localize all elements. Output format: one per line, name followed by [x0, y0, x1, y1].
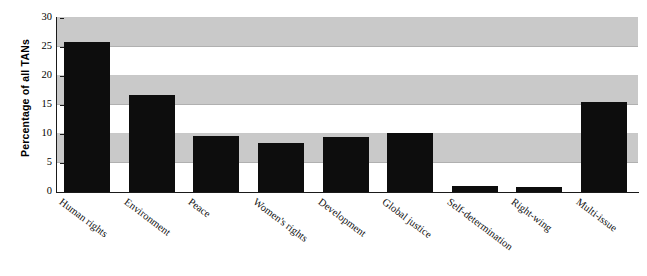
- y-tick-label: 15: [12, 98, 52, 109]
- y-tick-mark: [60, 105, 64, 106]
- bar: [129, 95, 175, 192]
- y-tick-mark: [60, 134, 64, 135]
- bar: [323, 137, 369, 192]
- x-tick-label: Global justice: [380, 196, 433, 240]
- x-axis-category-labels: Human rightsEnvironmentPeaceWomen's righ…: [0, 192, 647, 276]
- x-tick-label: Self-determination: [445, 196, 515, 252]
- y-tick-label: 5: [12, 156, 52, 167]
- bar-chart: Percentage of all TANs 051015202530 Huma…: [0, 0, 647, 276]
- y-tick-mark: [60, 163, 64, 164]
- y-tick-label: 10: [12, 127, 52, 138]
- bar: [387, 133, 433, 192]
- x-tick-label: Right-wing: [510, 196, 555, 234]
- y-axis-line: [56, 17, 57, 193]
- bar-series: [57, 18, 638, 192]
- chart-title: [0, 0, 647, 2]
- y-tick-mark: [60, 47, 64, 48]
- bar: [193, 136, 239, 192]
- x-tick-label: Human rights: [58, 196, 111, 239]
- x-tick-label: Peace: [187, 196, 213, 220]
- x-tick-label: Environment: [122, 196, 172, 238]
- bar: [258, 143, 304, 192]
- y-tick-label: 20: [12, 69, 52, 80]
- bar: [64, 42, 110, 192]
- bar: [581, 102, 627, 192]
- y-tick-mark: [60, 76, 64, 77]
- x-tick-label: Multi-issue: [574, 196, 619, 234]
- y-tick-label: 25: [12, 40, 52, 51]
- x-tick-label: Development: [316, 196, 368, 239]
- x-tick-label: Women's rights: [251, 196, 309, 244]
- y-tick-label: 30: [12, 11, 52, 22]
- y-tick-mark: [60, 18, 64, 19]
- plot-area: [57, 18, 638, 192]
